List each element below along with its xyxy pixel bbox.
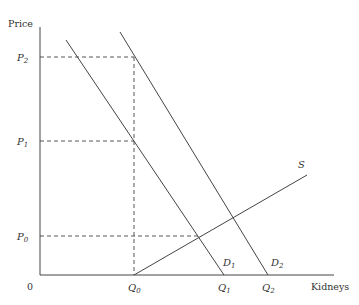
q2-label: Q2 (262, 282, 275, 295)
y-axis-label: Price (8, 18, 33, 29)
d2-label: D2 (270, 257, 284, 270)
p0-label: P0 (16, 231, 29, 244)
p1-label: P1 (16, 136, 28, 149)
x-axis-label: Kidneys (311, 281, 349, 292)
supply-curve-s (134, 175, 307, 275)
d1-label: D1 (222, 257, 236, 270)
p2-label: P2 (16, 52, 29, 65)
q0-label: Q0 (128, 282, 141, 295)
origin-label: 0 (27, 281, 33, 292)
supply-demand-diagram: Price Kidneys 0 P2 P1 P0 Q0 Q1 Q2 D1 D2 … (0, 0, 359, 305)
q1-label: Q1 (218, 282, 231, 295)
demand-curve-d1 (66, 40, 224, 275)
s-label: S (298, 159, 305, 170)
